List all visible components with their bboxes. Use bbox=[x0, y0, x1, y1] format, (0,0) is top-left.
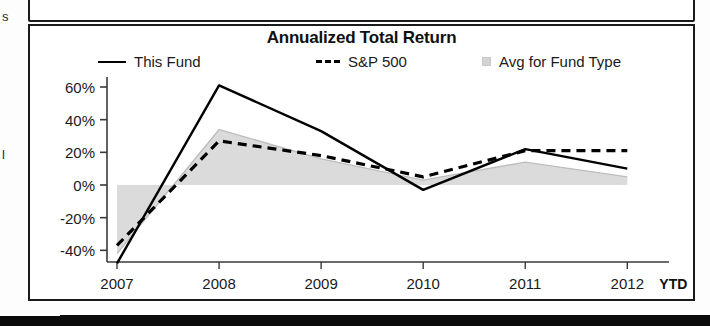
y-axis-tick-label: -40% bbox=[35, 243, 95, 258]
chart-panel: Annualized Total Return This Fund S&P 50… bbox=[28, 24, 695, 301]
x-axis-tick-label: 2010 bbox=[393, 276, 453, 291]
edge-text-fragment-middle: l bbox=[2, 148, 5, 161]
x-axis-tick-label: 2009 bbox=[291, 276, 351, 291]
y-axis-tick-label: 20% bbox=[35, 145, 95, 160]
x-axis-ytd-label: YTD bbox=[659, 277, 687, 291]
plot-area: 60%40%20%0%-20%-40% 20072008200920102011… bbox=[30, 26, 693, 299]
y-axis-tick-label: 40% bbox=[35, 113, 95, 128]
chart-svg bbox=[30, 26, 693, 299]
x-axis-tick-label: 2008 bbox=[189, 276, 249, 291]
edge-text-fragment-top: s bbox=[2, 10, 9, 23]
chart-screenshot: s l Annualized Total Return This Fund S&… bbox=[0, 0, 710, 326]
y-axis-tick-label: 0% bbox=[35, 178, 95, 193]
x-axis-tick-label: 2011 bbox=[495, 276, 555, 291]
bottom-black-bar bbox=[0, 315, 710, 326]
x-axis-tick-label: 2007 bbox=[87, 276, 147, 291]
y-axis-tick-label: -20% bbox=[35, 211, 95, 226]
y-axis-tick-label: 60% bbox=[35, 80, 95, 95]
x-axis-tick-label: 2012 bbox=[597, 276, 657, 291]
upper-panel-border bbox=[28, 0, 695, 22]
